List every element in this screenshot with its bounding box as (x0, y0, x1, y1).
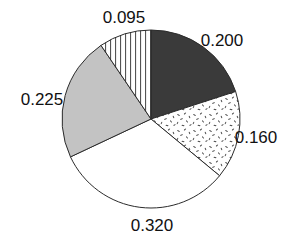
pie-slice-label-0-225: 0.225 (21, 90, 64, 109)
pie-chart-figure: 0.2000.1600.3200.2250.095 (0, 0, 301, 245)
pie-slice-label-0-200: 0.200 (201, 31, 244, 50)
pie-chart-canvas: 0.2000.1600.3200.2250.095 (0, 0, 301, 245)
pie-slice-label-0-160: 0.160 (235, 128, 278, 147)
pie-slices-group (62, 30, 240, 208)
pie-slice-label-0-095: 0.095 (103, 8, 146, 27)
pie-slice-label-0-320: 0.320 (131, 216, 174, 235)
